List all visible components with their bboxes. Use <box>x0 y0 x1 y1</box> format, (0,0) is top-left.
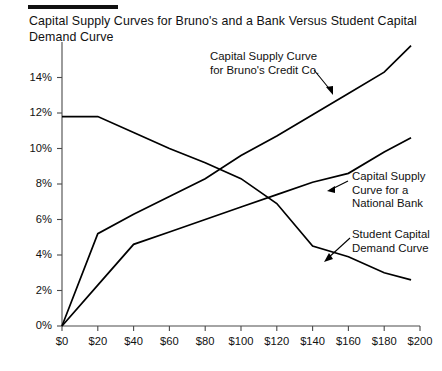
y-axis-ticks <box>57 78 62 327</box>
y-tick-label: 12% <box>6 106 52 118</box>
y-tick-label: 8% <box>6 177 52 189</box>
annotation-leaders <box>314 70 350 262</box>
y-tick-label: 14% <box>6 71 52 83</box>
y-tick-label: 2% <box>6 284 52 296</box>
annotation-bruno-supply: Capital Supply Curve for Bruno's Credit … <box>210 50 319 77</box>
x-tick-label: $200 <box>390 335 442 347</box>
y-tick-label: 4% <box>6 248 52 260</box>
x-axis-ticks <box>62 326 420 331</box>
y-tick-label: 10% <box>6 142 52 154</box>
bank-leader-arrow <box>327 186 335 193</box>
y-tick-label: 0% <box>6 319 52 331</box>
chart-page: Capital Supply Curves for Bruno's and a … <box>0 0 442 371</box>
annotation-student-demand: Student Capital Demand Curve <box>352 228 430 255</box>
y-tick-label: 6% <box>6 213 52 225</box>
annotation-bank-supply: Capital Supply Curve for a National Bank <box>352 170 425 211</box>
bruno-leader-arrow <box>326 86 333 95</box>
